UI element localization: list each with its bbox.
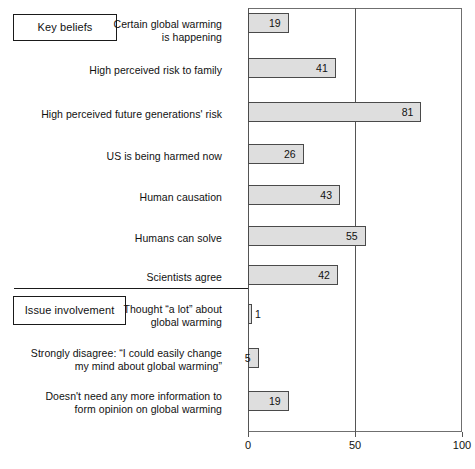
bar: 26 [248, 144, 304, 164]
gridline-50 [355, 8, 356, 432]
x-axis-tick-mark [248, 432, 249, 437]
bar-value-label: 26 [284, 149, 296, 160]
row-label: Humans can solve [135, 232, 222, 245]
bar-value-label: 19 [269, 396, 281, 407]
bar: 1 [248, 304, 252, 324]
horizontal-bar-chart: Key beliefs Issue involvement Certain gl… [0, 0, 475, 469]
figure-caption-clipped [8, 462, 328, 469]
bar: 41 [248, 58, 336, 78]
x-axis-tick-mark [462, 432, 463, 437]
bar: 19 [248, 13, 289, 33]
bar-value-label: 42 [318, 270, 330, 281]
bar-value-label: 5 [245, 353, 251, 364]
bar-value-label: 1 [255, 309, 261, 320]
group-label-key-beliefs-text: Key beliefs [38, 22, 93, 33]
row-label: High perceived future generations' risk [41, 108, 222, 121]
bar: 81 [248, 102, 421, 122]
bar-value-label: 81 [402, 107, 414, 118]
bar: 5 [248, 348, 259, 368]
row-label: Certain global warming is happening [114, 18, 222, 43]
bar: 43 [248, 185, 340, 205]
row-label: US is being harmed now [107, 150, 223, 163]
row-label: Scientists agree [146, 271, 222, 284]
row-label: Strongly disagree: “I could easily chang… [31, 347, 222, 372]
bar-value-label: 43 [320, 190, 332, 201]
row-label: Human causation [140, 191, 222, 204]
bar-value-label: 41 [316, 63, 328, 74]
row-label: High perceived risk to family [89, 64, 222, 77]
bar-value-label: 55 [346, 231, 358, 242]
bar: 19 [248, 391, 289, 411]
x-axis-tick-label: 100 [453, 440, 471, 451]
bar: 42 [248, 265, 338, 285]
x-axis-tick-label: 50 [349, 440, 361, 451]
bar: 55 [248, 226, 366, 246]
section-divider [14, 288, 249, 289]
x-axis-tick-mark [355, 432, 356, 437]
group-label-key-beliefs: Key beliefs [13, 14, 117, 41]
group-label-issue-involvement-text: Issue involvement [25, 305, 115, 316]
row-label: Thought “a lot” about global warming [123, 303, 222, 328]
group-label-issue-involvement: Issue involvement [13, 296, 126, 325]
row-label: Doesn't need any more information to for… [45, 390, 222, 415]
x-axis-tick-label: 0 [245, 440, 251, 451]
bar-value-label: 19 [269, 18, 281, 29]
